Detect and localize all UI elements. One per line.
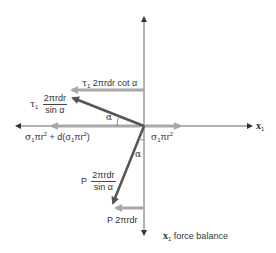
force-diagram — [0, 0, 276, 253]
pressure-inclined-label: P 2πrdrsin α — [81, 171, 116, 192]
stress-left-label: σ1πr2 + d(σ1πr2) — [25, 131, 90, 143]
upper-angle-label: α — [106, 113, 112, 122]
shear-inclined-label: τ1 2πrdrsin α — [30, 94, 67, 115]
x1-axis-label: x1 — [256, 121, 264, 132]
stress-right-label: σ1πr2 — [151, 131, 173, 143]
pressure-horizontal-label: P 2πrdr — [107, 216, 138, 225]
pressure-inclined-arrow — [113, 126, 144, 203]
shear-horizontal-label: τ1 2πrdr cot α — [82, 79, 137, 89]
lower-angle-label: α — [135, 150, 141, 159]
force-balance-caption: x1 force balance — [163, 231, 228, 242]
